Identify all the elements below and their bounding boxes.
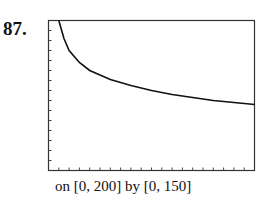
graph-plot: [0, 0, 275, 207]
data-curve: [59, 21, 255, 105]
window-caption: on [0, 200] by [0, 150]: [55, 178, 191, 195]
graph-frame: [49, 21, 255, 171]
